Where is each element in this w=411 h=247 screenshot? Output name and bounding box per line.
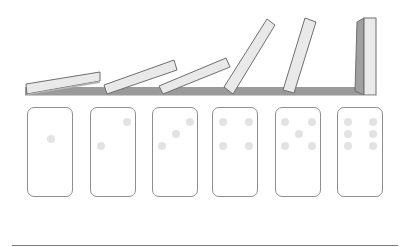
pip: [281, 118, 289, 126]
pip: [245, 142, 253, 150]
domino-5: [283, 18, 316, 93]
pip: [47, 135, 55, 143]
domino-card-1: [27, 107, 73, 197]
bottom-divider: [12, 245, 398, 246]
domino-4: [224, 19, 275, 94]
domino-card-3: [152, 107, 198, 197]
pip: [344, 142, 352, 150]
pip: [308, 118, 316, 126]
pip: [123, 118, 131, 126]
pip: [219, 142, 227, 150]
domino-6: [355, 18, 376, 95]
ground-shadow: [25, 95, 375, 96]
pip: [281, 142, 289, 150]
pip: [172, 130, 180, 138]
pip: [369, 142, 377, 150]
ground-shelf: [25, 87, 375, 95]
pip: [344, 118, 352, 126]
pip: [158, 142, 166, 150]
pip: [369, 130, 377, 138]
pip: [369, 118, 377, 126]
pip: [97, 142, 105, 150]
pip: [295, 130, 303, 138]
pip: [344, 130, 352, 138]
pip: [308, 142, 316, 150]
domino-card-2: [90, 107, 136, 197]
pip: [245, 118, 253, 126]
domino-card-6: [337, 107, 383, 197]
domino-card-5: [275, 107, 321, 197]
pip: [186, 118, 194, 126]
pip: [219, 118, 227, 126]
domino-card-4: [212, 107, 258, 197]
